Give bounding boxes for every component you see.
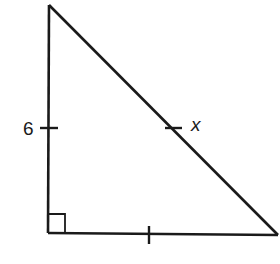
- hypotenuse: [49, 5, 278, 235]
- left-leg-label: 6: [23, 118, 34, 139]
- left-leg: [48, 5, 49, 233]
- triangle-diagram: 6 x: [0, 0, 280, 264]
- hypotenuse-label: x: [190, 114, 202, 135]
- bottom-leg: [48, 233, 278, 235]
- right-angle-marker: [49, 214, 65, 232]
